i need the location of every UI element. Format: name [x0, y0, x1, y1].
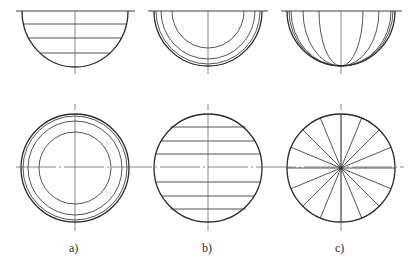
radial-spoke: [303, 130, 341, 168]
panel-a: [16, 11, 135, 231]
radial-spoke: [341, 168, 379, 206]
panel-b: [148, 11, 268, 231]
panel-b-label: b): [202, 241, 212, 255]
sphere-projection-diagram: a) b) c): [0, 0, 412, 266]
panel-c: [281, 11, 402, 231]
panel-c-label: c): [335, 241, 344, 255]
radial-spoke: [303, 168, 341, 206]
panel-a-label: a): [69, 241, 78, 255]
radial-spoke: [341, 130, 379, 168]
